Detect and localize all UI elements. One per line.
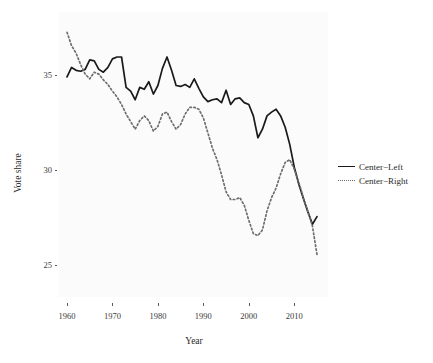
x-tick-label: 2000 — [229, 311, 269, 321]
y-tick-mark — [55, 170, 57, 171]
legend-item-center-right[interactable]: Center−Right — [338, 174, 408, 188]
y-tick-mark — [55, 265, 57, 266]
legend-dashed-line-icon — [338, 176, 355, 186]
legend-label: Center−Right — [359, 176, 408, 186]
x-tick-mark — [67, 303, 68, 306]
y-tick-label: 25 — [26, 260, 52, 270]
x-tick-label: 1980 — [138, 311, 178, 321]
x-tick-label: 2010 — [274, 311, 314, 321]
x-tick-label: 1990 — [183, 311, 223, 321]
y-tick-label: 35 — [26, 70, 52, 80]
y-axis-title: Vote share — [13, 133, 23, 213]
x-tick-mark — [294, 303, 295, 306]
x-tick-mark — [158, 303, 159, 306]
y-tick-mark — [55, 75, 57, 76]
x-tick-label: 1970 — [92, 311, 132, 321]
legend-solid-line-icon — [338, 162, 355, 172]
chart-figure: 253035 196019701980199020002010 Year Vot… — [0, 0, 433, 363]
chart-legend: Center−Left Center−Right — [338, 160, 408, 188]
series-line-center-right — [67, 32, 317, 254]
x-tick-mark — [112, 303, 113, 306]
y-tick-label: 30 — [26, 165, 52, 175]
series-line-center-left — [67, 57, 317, 224]
x-tick-mark — [203, 303, 204, 306]
x-axis-title: Year — [0, 336, 388, 346]
x-tick-label: 1960 — [47, 311, 87, 321]
x-tick-mark — [249, 303, 250, 306]
legend-label: Center−Left — [359, 162, 403, 172]
legend-item-center-left[interactable]: Center−Left — [338, 160, 408, 174]
